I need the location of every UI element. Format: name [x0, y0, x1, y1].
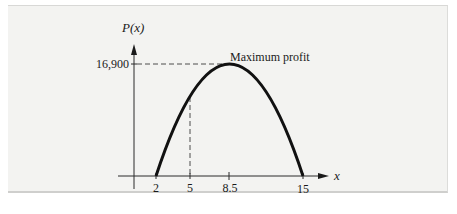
y-tick-label-16900: 16,900 [96, 57, 129, 71]
x-tick-label-8-5: 8.5 [223, 181, 238, 195]
y-axis-arrow-icon [131, 44, 137, 55]
x-tick-label-15: 15 [297, 182, 309, 196]
x-axis-label: x [333, 168, 340, 183]
x-tick-label-5: 5 [187, 181, 193, 195]
profit-curve [156, 64, 303, 176]
y-axis-label: P(x) [121, 20, 144, 35]
x-axis-arrow-icon [318, 173, 329, 179]
x-tick-label-2: 2 [153, 181, 159, 195]
max-profit-annotation: Maximum profit [230, 50, 310, 64]
profit-chart: P(x) x 16,900 Maximum profit 2 5 8.5 15 [0, 0, 457, 214]
